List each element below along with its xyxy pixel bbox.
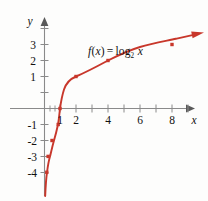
log-base: 2 <box>130 52 134 60</box>
x-axis-group <box>10 105 195 113</box>
log-function-plot: 1 2 4 6 8 3 2 1 -1 -2 -3 -4 y x <box>0 0 208 201</box>
function-equals-sign: = <box>105 45 116 57</box>
y-tick-label-neg1: -1 <box>27 119 37 131</box>
y-tick-label-2: 2 <box>30 55 36 67</box>
x-tick-label-6: 6 <box>137 114 143 126</box>
log-operator: log <box>115 45 130 57</box>
x-axis-arrowhead <box>186 105 195 113</box>
y-tick-label-1: 1 <box>30 71 36 83</box>
x-tick-label-1: 1 <box>57 114 63 126</box>
y-tick-label-neg2: -2 <box>27 135 37 147</box>
figure-canvas: 1 2 4 6 8 3 2 1 -1 -2 -3 -4 y x f(x)=log… <box>0 0 208 201</box>
x-tick-label-2: 2 <box>73 114 79 126</box>
y-axis-arrowhead <box>41 17 49 26</box>
x-tick-label-8: 8 <box>169 114 175 126</box>
y-tick-label-neg3: -3 <box>27 151 37 163</box>
x-axis-label: x <box>190 114 197 126</box>
y-tick-label-neg4: -4 <box>27 167 37 179</box>
x-tick-label-4: 4 <box>105 114 111 126</box>
curve-arrowhead <box>191 31 204 38</box>
y-axis-label: y <box>26 15 33 28</box>
y-tick-label-3: 3 <box>30 39 36 51</box>
x-tick-labels: 1 2 4 6 8 <box>57 114 175 126</box>
function-variable: x <box>138 45 143 57</box>
function-equation-label: f(x)=log2 x <box>88 45 143 57</box>
